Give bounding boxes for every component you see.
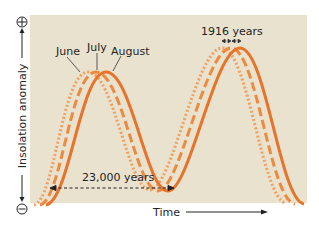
insolation-diagram: June July August 1916 years 23,000 years… xyxy=(0,0,319,226)
y-axis: Insolation anomaly xyxy=(16,17,29,214)
x-axis-label: Time xyxy=(152,206,180,219)
label-july: July xyxy=(86,41,107,54)
plot-panel xyxy=(30,15,307,203)
x-axis: Time xyxy=(152,206,268,219)
label-august: August xyxy=(111,45,150,58)
y-axis-label: Insolation anomaly xyxy=(16,63,29,168)
label-offset: 1916 years xyxy=(201,25,263,38)
label-june: June xyxy=(55,45,80,58)
label-period: 23,000 years xyxy=(82,171,155,184)
